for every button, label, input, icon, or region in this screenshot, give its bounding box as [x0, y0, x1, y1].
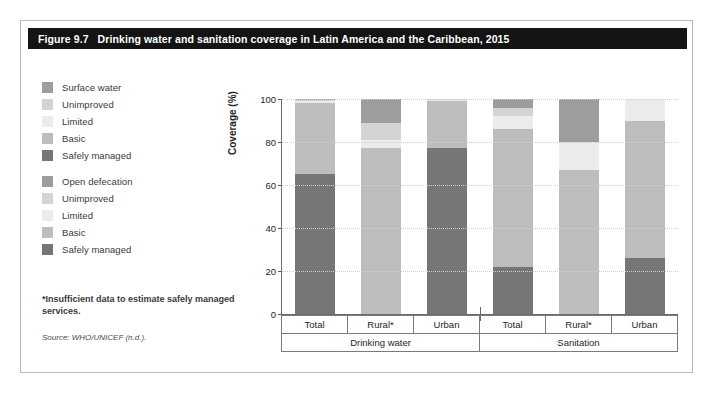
- legend-swatch-icon: [42, 193, 53, 204]
- legend-item[interactable]: Safely managed: [42, 147, 131, 164]
- legend-sanitation: Open defecationUnimprovedLimitedBasicSaf…: [42, 173, 132, 258]
- x-axis-group-cell[interactable]: Drinking water: [282, 334, 480, 351]
- legend-item[interactable]: Limited: [42, 207, 132, 224]
- legend-drinking-water: Surface waterUnimprovedLimitedBasicSafel…: [42, 79, 131, 164]
- gridline: [282, 271, 678, 272]
- legend-swatch-icon: [42, 210, 53, 221]
- gridline: [282, 99, 678, 100]
- legend-item-label: Safely managed: [62, 244, 131, 255]
- figure-source: Source: WHO/UNICEF (n.d.).: [42, 333, 146, 342]
- legend-item-label: Safely managed: [62, 150, 131, 161]
- legend-item-label: Limited: [62, 116, 93, 127]
- legend-item[interactable]: Basic: [42, 130, 131, 147]
- legend-item[interactable]: Surface water: [42, 79, 131, 96]
- gridline: [282, 185, 678, 186]
- y-axis-tick-label: 20: [265, 266, 276, 277]
- x-axis-category-cell[interactable]: Urban: [612, 316, 677, 333]
- x-axis-label-tables: TotalRural*UrbanTotalRural*Urban Drinkin…: [281, 315, 678, 352]
- bar-segment: [625, 99, 665, 121]
- bar-segment: [295, 103, 335, 174]
- bar-segment: [493, 129, 533, 267]
- legend-item[interactable]: Safely managed: [42, 241, 132, 258]
- legend-item-label: Unimproved: [62, 99, 114, 110]
- x-axis-category-cell[interactable]: Urban: [414, 316, 480, 333]
- legend-item[interactable]: Basic: [42, 224, 132, 241]
- legend-swatch-icon: [42, 244, 53, 255]
- legend-item-label: Basic: [62, 227, 85, 238]
- legend-swatch-icon: [42, 176, 53, 187]
- bar-segment: [493, 267, 533, 314]
- figure-footnote: *Insufficient data to estimate safely ma…: [42, 293, 242, 317]
- legend-item[interactable]: Limited: [42, 113, 131, 130]
- legend-item-label: Unimproved: [62, 193, 114, 204]
- y-axis-tick-label: 0: [271, 309, 276, 320]
- bar-segment: [493, 116, 533, 129]
- bar-segment: [361, 123, 401, 140]
- stacked-bar[interactable]: [427, 99, 467, 314]
- figure-container: Figure 9.7 Drinking water and sanitation…: [20, 20, 693, 373]
- legend-swatch-icon: [42, 133, 53, 144]
- x-axis-group-row: Drinking waterSanitation: [281, 334, 678, 352]
- chart: Coverage (%) 020406080100 TotalRural*Urb…: [233, 59, 683, 359]
- legend-item-label: Limited: [62, 210, 93, 221]
- bar-segment: [559, 170, 599, 314]
- bar-segment: [625, 258, 665, 314]
- y-axis-tick-label: 60: [265, 180, 276, 191]
- stacked-bar[interactable]: [559, 99, 599, 314]
- legend-item-label: Surface water: [62, 82, 121, 93]
- legend-item[interactable]: Unimproved: [42, 190, 132, 207]
- y-axis-tick-labels: 020406080100: [245, 59, 281, 315]
- bar-segment: [427, 148, 467, 314]
- bar-segment: [493, 108, 533, 117]
- stacked-bar[interactable]: [493, 99, 533, 314]
- y-axis-tick-label: 100: [260, 94, 276, 105]
- x-axis-category-row: TotalRural*UrbanTotalRural*Urban: [281, 315, 678, 334]
- bars-layer: [282, 99, 678, 314]
- x-axis-category-cell[interactable]: Rural*: [546, 316, 612, 333]
- y-axis-title: Coverage (%): [227, 91, 238, 155]
- legend-item[interactable]: Unimproved: [42, 96, 131, 113]
- legend-item-label: Open defecation: [62, 176, 132, 187]
- plot-area: [281, 99, 678, 315]
- legend-swatch-icon: [42, 150, 53, 161]
- x-axis-category-cell[interactable]: Total: [480, 316, 546, 333]
- stacked-bar[interactable]: [295, 99, 335, 314]
- legend-item-label: Basic: [62, 133, 85, 144]
- x-axis-group-cell[interactable]: Sanitation: [480, 334, 677, 351]
- bar-segment: [361, 99, 401, 123]
- stacked-bar[interactable]: [361, 99, 401, 314]
- figure-title-bar: Figure 9.7 Drinking water and sanitation…: [28, 28, 687, 49]
- bar-segment: [361, 148, 401, 314]
- gridline: [282, 142, 678, 143]
- bar-segment: [559, 142, 599, 170]
- legend-item[interactable]: Open defecation: [42, 173, 132, 190]
- legend-swatch-icon: [42, 82, 53, 93]
- y-axis-tick-label: 40: [265, 223, 276, 234]
- bar-segment: [559, 99, 599, 142]
- gridline: [282, 228, 678, 229]
- bar-segment: [295, 174, 335, 314]
- y-axis-tick-label: 80: [265, 137, 276, 148]
- bar-segment: [493, 99, 533, 108]
- figure-title: Drinking water and sanitation coverage i…: [98, 33, 510, 45]
- x-axis-category-cell[interactable]: Rural*: [348, 316, 414, 333]
- legend-swatch-icon: [42, 99, 53, 110]
- legend-swatch-icon: [42, 227, 53, 238]
- legend-swatch-icon: [42, 116, 53, 127]
- x-axis-category-cell[interactable]: Total: [282, 316, 348, 333]
- stacked-bar[interactable]: [625, 99, 665, 314]
- figure-number: Figure 9.7: [38, 33, 89, 45]
